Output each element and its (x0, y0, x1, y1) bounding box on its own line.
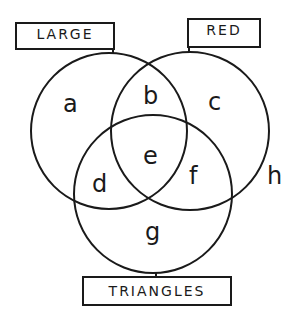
region-f: f (189, 164, 197, 188)
triangles-label: TRIANGLES (82, 276, 232, 306)
region-c: c (208, 90, 221, 114)
region-d: d (92, 172, 107, 196)
region-h: h (267, 164, 282, 188)
large-circle (31, 53, 187, 209)
large-label: LARGE (15, 22, 115, 50)
region-b: b (143, 84, 158, 108)
region-e: e (143, 144, 158, 168)
red-label: RED (187, 18, 261, 48)
region-g: g (145, 220, 160, 244)
region-a: a (63, 92, 78, 116)
